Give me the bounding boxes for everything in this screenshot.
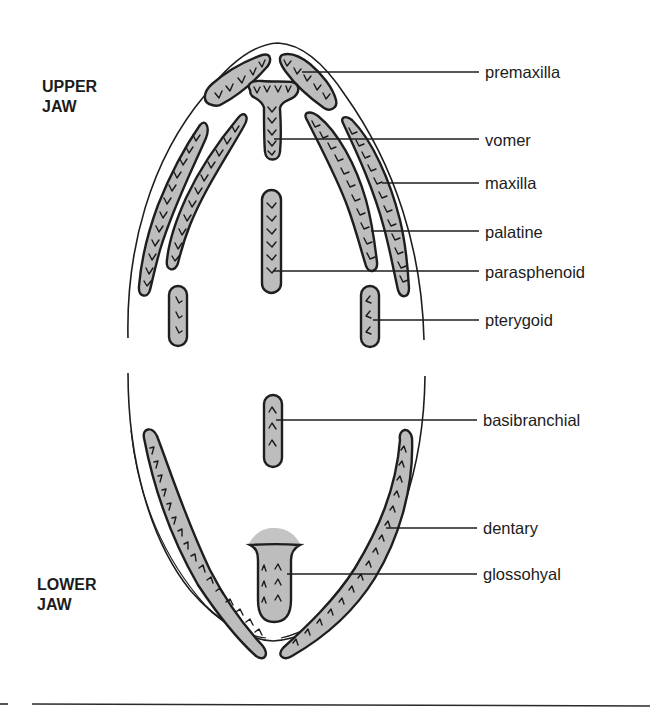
parasphenoid: [262, 190, 281, 293]
bottom-rule: [32, 704, 650, 706]
bone-labels: premaxilla vomer maxilla palatine parasp…: [483, 63, 585, 583]
basibranchial: [264, 395, 282, 467]
label-parasphenoid: parasphenoid: [485, 263, 585, 281]
vomer: [249, 81, 299, 160]
upper-jaw-label-line2: JAW: [42, 98, 78, 115]
label-glossohyal: glossohyal: [483, 565, 561, 583]
label-vomer: vomer: [485, 131, 531, 149]
pterygoid-right: [361, 286, 379, 347]
label-dentary: dentary: [483, 519, 539, 537]
label-premaxilla: premaxilla: [485, 63, 561, 81]
lower-jaw-label-line1: LOWER: [37, 576, 97, 593]
lower-jaw: [128, 373, 425, 658]
section-labels: UPPER JAW LOWER JAW: [37, 78, 98, 613]
jaw-bones-diagram: premaxilla vomer maxilla palatine parasp…: [0, 0, 650, 718]
label-pterygoid: pterygoid: [485, 311, 553, 329]
upper-jaw: [128, 43, 424, 347]
label-maxilla: maxilla: [485, 174, 537, 192]
lower-jaw-label-line2: JAW: [37, 596, 73, 613]
upper-jaw-label-line1: UPPER: [42, 78, 98, 95]
glossohyal: [248, 528, 301, 622]
label-basibranchial: basibranchial: [483, 411, 580, 429]
label-palatine: palatine: [485, 223, 543, 241]
pterygoid-left: [169, 286, 187, 346]
